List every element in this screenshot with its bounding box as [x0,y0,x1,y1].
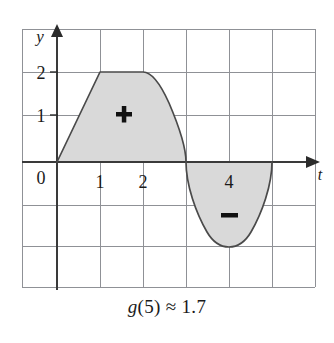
caption-value: 1.7 [182,296,207,317]
figure-caption: g(5) ≈ 1.7 [0,296,334,318]
negative-region-label [221,213,238,218]
positive-area-shading [57,72,186,162]
y-axis-label: y [34,27,44,46]
x-tick-label-0: 0 [37,168,46,188]
x-tick-label-1: 1 [96,172,105,192]
caption-relation: ≈ [166,296,177,317]
caption-argument: (5) [138,296,161,317]
y-tick-label-1: 1 [37,106,46,126]
integral-area-figure: y t 2 1 0 1 2 4 [0,0,334,343]
t-axis-label: t [318,166,323,183]
x-tick-label-2: 2 [139,172,148,192]
caption-function-name: g [128,296,138,317]
y-tick-label-2: 2 [37,63,46,83]
x-tick-label-4: 4 [225,172,234,192]
graph-svg: y t 2 1 0 1 2 4 [0,0,334,343]
y-axis-arrowhead [51,24,63,37]
